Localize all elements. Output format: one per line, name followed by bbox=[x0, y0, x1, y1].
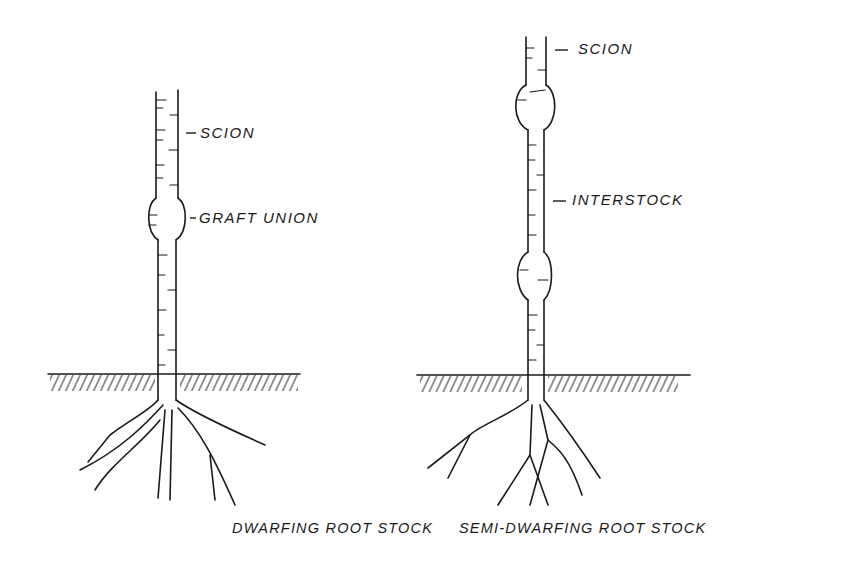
semi-dwarfing-caption: SEMI-DWARFING ROOT STOCK bbox=[459, 520, 706, 536]
grafting-illustration bbox=[0, 0, 850, 569]
scion-trunk-left bbox=[156, 90, 178, 198]
graft-union-label-left: GRAFT UNION bbox=[199, 209, 319, 226]
roots-left bbox=[80, 400, 265, 505]
scion-label-left: SCION bbox=[200, 124, 255, 141]
graft-union-left bbox=[149, 198, 186, 240]
ground-soil-right bbox=[417, 375, 690, 392]
semi-dwarfing-tree bbox=[417, 37, 690, 505]
interstock-label-right: INTERSTOCK bbox=[572, 191, 683, 208]
rootstock-trunk-left bbox=[158, 240, 176, 400]
scion-label-right: SCION bbox=[578, 40, 633, 57]
dwarfing-tree bbox=[48, 90, 300, 505]
ground-soil-left bbox=[48, 374, 300, 391]
dwarfing-caption: DWARFING ROOT STOCK bbox=[232, 520, 433, 536]
scion-trunk-right bbox=[526, 37, 546, 85]
interstock-trunk-right bbox=[528, 130, 544, 252]
lower-graft-union-right bbox=[518, 252, 552, 300]
roots-right bbox=[428, 400, 600, 505]
